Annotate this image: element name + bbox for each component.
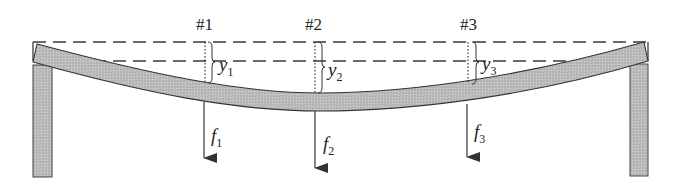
- point-label-1: #1: [196, 15, 213, 34]
- deflection-label-3: y3: [480, 53, 496, 78]
- force-label-1: f1: [211, 125, 222, 150]
- deflection-label-2: y2: [326, 59, 342, 84]
- beam-deflection-diagram: #1 y1 f1 #2 y2 f2 #3 y3 f3: [0, 0, 674, 188]
- right-support: [630, 64, 648, 176]
- point-2: #2 y2 f2: [305, 15, 342, 168]
- brace-2: [318, 42, 325, 93]
- point-label-2: #2: [305, 15, 322, 34]
- deflection-label-1: y1: [217, 54, 233, 79]
- point-label-3: #3: [460, 15, 477, 34]
- reference-lines: [33, 42, 648, 61]
- brace-1: [208, 42, 215, 83]
- force-label-2: f2: [323, 133, 334, 158]
- left-support: [33, 65, 52, 177]
- force-label-3: f3: [474, 121, 485, 146]
- brace-3: [472, 42, 479, 84]
